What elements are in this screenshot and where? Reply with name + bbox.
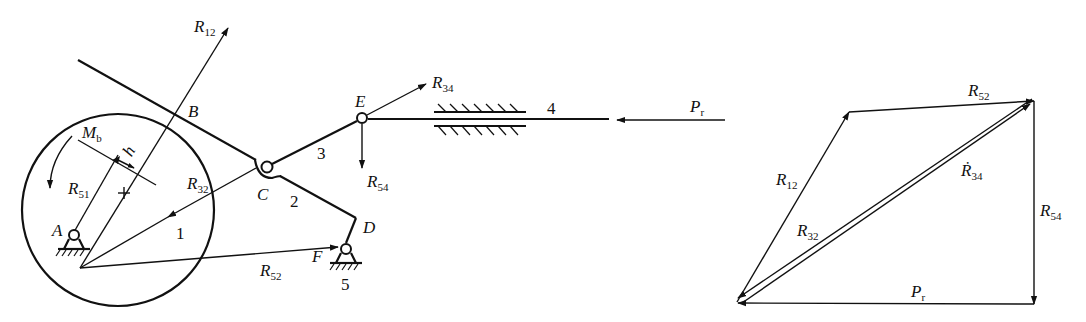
- poly-label-r54: R54: [1039, 201, 1062, 222]
- label-r12: R12: [193, 17, 215, 38]
- poly-label-pr: Pr: [910, 282, 925, 303]
- label-r34: R34: [431, 73, 454, 94]
- poly-label-r52: R52: [967, 81, 989, 102]
- label-mb: Mb: [81, 123, 102, 144]
- label-f: F: [311, 247, 323, 266]
- label-pr: Pr: [689, 97, 704, 118]
- poly-r34: [742, 104, 1030, 303]
- poly-r52: [849, 101, 1034, 112]
- poly-label-r34: Ṙ34: [960, 161, 983, 182]
- label-link-2: 2: [290, 192, 299, 211]
- label-h: h: [118, 143, 139, 160]
- mechanism: R12 B Mb h R51 R32 A 1 C 2 3 E R34 R54 4…: [22, 17, 725, 306]
- link2-df: [346, 218, 356, 243]
- poly-label-r12: R12: [775, 170, 797, 191]
- label-link-1: 1: [176, 224, 185, 243]
- poly-label-r32: R32: [796, 221, 818, 242]
- label-link-5: 5: [341, 275, 350, 294]
- label-r54: R54: [366, 172, 389, 193]
- link3: [272, 121, 357, 164]
- r34-vector: [367, 84, 426, 115]
- label-link-4: 4: [547, 99, 556, 118]
- label-c: C: [257, 185, 269, 204]
- r32-vector: [168, 168, 256, 217]
- cam-disc: [22, 114, 214, 306]
- poly-r32: [738, 99, 1032, 298]
- radial-line: [80, 217, 168, 268]
- label-r51: R51: [67, 179, 89, 200]
- joint-e: [357, 113, 367, 123]
- poly-r12: [737, 112, 849, 302]
- label-b: B: [188, 102, 199, 121]
- label-a: A: [51, 221, 63, 240]
- poly-pr: [738, 303, 1034, 304]
- force-polygon: R52 R12 Ṙ34 R32 R54 Pr: [737, 81, 1062, 304]
- r12-vector: [80, 28, 228, 268]
- joint-c: [262, 162, 273, 173]
- r52-vector: [80, 247, 338, 268]
- tangent-line: [78, 60, 256, 160]
- label-d: D: [362, 218, 376, 237]
- mechanism-force-diagram: R12 B Mb h R51 R32 A 1 C 2 3 E R34 R54 4…: [0, 0, 1086, 322]
- label-r32: R32: [186, 174, 208, 195]
- label-r52: R52: [259, 261, 281, 282]
- label-e: E: [354, 92, 366, 111]
- label-link-3: 3: [317, 144, 326, 163]
